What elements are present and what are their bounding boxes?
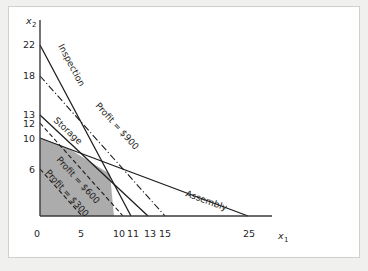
y-axis-title-subscript: 2 — [32, 21, 36, 29]
x-tick-0: 0 — [34, 228, 40, 239]
x-tick-25: 25 — [243, 228, 255, 239]
x-tick-15: 15 — [159, 228, 171, 239]
linear-programming-chart: x 2 x 1 22 18 13 12 10 6 0 5 10 11 13 15… — [0, 0, 368, 271]
x-tick-5: 5 — [78, 228, 84, 239]
assembly-label: Assembly — [184, 188, 229, 212]
y-tick-6: 6 — [29, 164, 35, 175]
y-tick-22: 22 — [23, 39, 35, 50]
chart-canvas: x 2 x 1 22 18 13 12 10 6 0 5 10 11 13 15… — [0, 0, 368, 271]
inspection-label: Inspection — [56, 42, 87, 88]
y-axis-title: x — [25, 15, 32, 26]
y-tick-18: 18 — [23, 70, 35, 81]
x-tick-11: 11 — [127, 228, 139, 239]
profit-900-label: Profit = $900 — [94, 101, 142, 152]
y-tick-12: 12 — [23, 118, 35, 129]
x-tick-13: 13 — [144, 228, 156, 239]
x-axis-title: x — [277, 230, 284, 241]
x-tick-10: 10 — [113, 228, 125, 239]
y-tick-10: 10 — [23, 133, 35, 144]
x-axis-title-subscript: 1 — [284, 236, 288, 244]
